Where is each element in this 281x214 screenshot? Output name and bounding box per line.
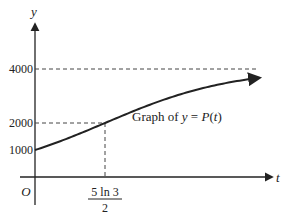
y-tick-label-2000: 2000 — [9, 116, 33, 130]
curve-label: Graph of y = P(t) — [132, 109, 222, 124]
y-axis-label: y — [29, 4, 37, 19]
x-tick-numerator: 5 ln 3 — [91, 185, 118, 199]
curve-label-P: P — [200, 109, 209, 124]
chart: y t O 100020004000 5 ln 3 2 Graph of y =… — [0, 0, 281, 214]
x-tick-denominator: 2 — [102, 201, 108, 214]
origin-label: O — [21, 184, 31, 199]
curve-label-close: ) — [217, 109, 221, 124]
curve-label-prefix: Graph of — [132, 109, 182, 124]
y-tick-label-4000: 4000 — [9, 62, 33, 76]
y-ticks: 100020004000 — [9, 62, 33, 157]
curve-label-eq: = — [188, 109, 202, 124]
y-tick-label-1000: 1000 — [9, 143, 33, 157]
x-axis-label: t — [276, 170, 280, 185]
x-tick-label: 5 ln 3 2 — [88, 185, 122, 214]
